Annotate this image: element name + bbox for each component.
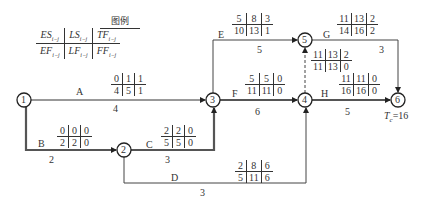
- activity-E-name: E: [218, 30, 224, 40]
- node-3-label: 3: [210, 95, 215, 105]
- activity-E-duration: 5: [257, 45, 262, 55]
- legend-tf: TFi−j: [92, 28, 120, 44]
- legend-ef: EFi−j: [36, 44, 64, 60]
- grid-H: 11110 16160: [339, 73, 380, 96]
- legend-title: 图例: [100, 14, 140, 29]
- grid-B: 000 220: [57, 125, 92, 148]
- node-1-label: 1: [21, 95, 26, 105]
- activity-D-duration: 3: [200, 188, 205, 198]
- activity-F-duration: 6: [255, 107, 260, 117]
- activity-B-name: B: [38, 139, 45, 149]
- activity-G-name: G: [323, 30, 330, 40]
- grid-G: 11132 14162: [337, 13, 378, 36]
- node-2-label: 2: [121, 145, 126, 155]
- grid-dummy: 11132 11130: [311, 49, 352, 72]
- activity-G-duration: 3: [379, 45, 384, 55]
- grid-E: 583 10131: [232, 13, 273, 36]
- grid-C: 220 550: [161, 125, 196, 148]
- activity-C-duration: 3: [165, 155, 170, 165]
- activity-A-duration: 4: [113, 104, 118, 114]
- activity-B-duration: 2: [49, 155, 54, 165]
- activity-H-name: H: [321, 89, 328, 99]
- grid-F: 550 11110: [245, 73, 285, 96]
- activity-C-name: C: [146, 140, 153, 150]
- activity-D-name: D: [171, 173, 178, 183]
- grid-A: 011 451: [111, 73, 146, 96]
- node-4-label: 4: [302, 95, 307, 105]
- activity-H-duration: 5: [345, 107, 350, 117]
- grid-D: 286 5116: [235, 160, 273, 183]
- activity-F-name: F: [232, 89, 238, 99]
- node-5-label: 5: [302, 35, 307, 45]
- legend-lf: LFi−j: [64, 44, 92, 60]
- legend-grid: ESi−j LSi−j TFi−j EFi−j LFi−j FFi−j: [36, 28, 120, 59]
- activity-A-name: A: [76, 87, 83, 97]
- total-duration-label: Tc=16: [384, 111, 408, 125]
- legend-es: ESi−j: [36, 28, 64, 44]
- legend-ff: FFi−j: [92, 44, 120, 60]
- legend-ls: LSi−j: [64, 28, 92, 44]
- node-6-label: 6: [395, 95, 400, 105]
